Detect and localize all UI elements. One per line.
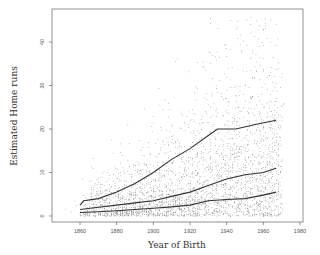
y-tick-label: 10 [39, 169, 45, 175]
x-tick-label: 1960 [257, 228, 269, 234]
y-tick-label: 0 [39, 214, 45, 217]
x-tick-label: 1980 [294, 228, 306, 234]
x-tick-label: 1940 [221, 228, 233, 234]
y-tick-label: 30 [39, 82, 45, 88]
upper-curve [80, 120, 276, 205]
x-tick-label: 1860 [74, 228, 86, 234]
plot-frame [52, 9, 303, 222]
scatter-points [65, 17, 284, 217]
y-tick-label: 20 [39, 126, 45, 132]
scatter-chart: 1860188019001920194019601980 010203040 Y… [0, 0, 320, 255]
x-axis-label: Year of Birth [147, 240, 206, 250]
x-tick-label: 1920 [184, 228, 196, 234]
x-axis: 1860188019001920194019601980 [74, 222, 306, 234]
x-tick-label: 1880 [111, 228, 123, 234]
y-axis: 010203040 [39, 39, 52, 218]
y-tick-label: 40 [39, 39, 45, 45]
y-axis-label: Estimated Home runs [9, 66, 19, 166]
x-tick-label: 1900 [147, 228, 159, 234]
